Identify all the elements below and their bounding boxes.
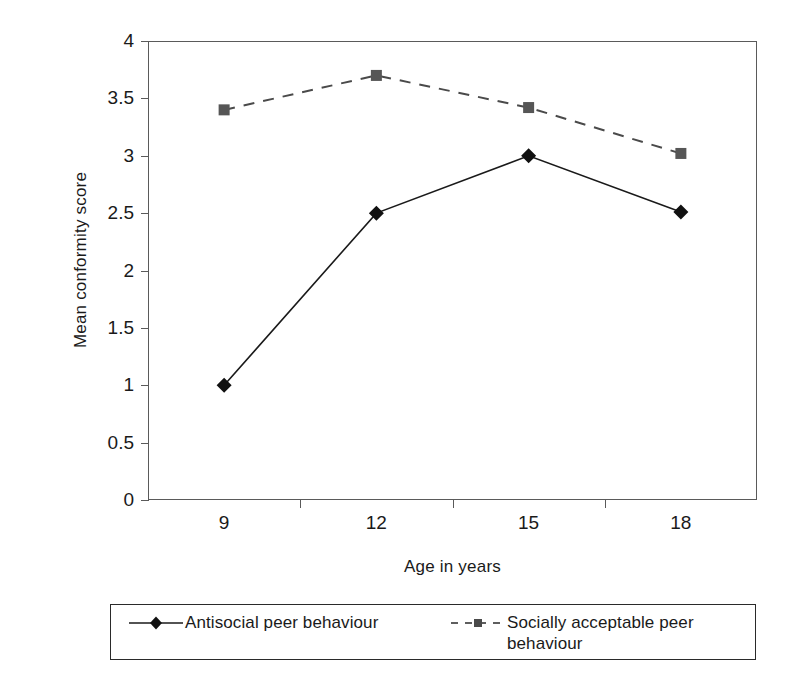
- y-axis-tick-label: 2.5: [74, 203, 134, 222]
- y-axis-tick-mark: [141, 98, 149, 99]
- x-axis-tick-mark: [300, 500, 301, 508]
- y-axis-tick-mark: [141, 385, 149, 386]
- y-axis-tick-label: 0: [74, 490, 134, 509]
- y-axis-tick-mark: [141, 500, 149, 501]
- y-axis-tick-label: 1.5: [74, 318, 134, 337]
- y-axis-tick-labels: 00.511.522.533.54: [70, 0, 134, 680]
- legend-entry-socially-acceptable: Socially acceptable peer behaviour: [449, 612, 739, 654]
- x-axis-tick-mark: [605, 500, 606, 508]
- y-axis-tick-label: 1: [74, 375, 134, 394]
- legend-marker-square-icon: [449, 613, 507, 633]
- y-axis-tick-label: 4: [74, 31, 134, 50]
- x-axis-tick-mark: [453, 500, 454, 508]
- y-axis-tick-label: 3.5: [74, 88, 134, 107]
- line-chart: Mean conformity score 00.511.522.533.54 …: [0, 0, 792, 680]
- y-axis-tick-mark: [141, 271, 149, 272]
- legend-label-socially-acceptable: Socially acceptable peer behaviour: [507, 612, 739, 654]
- legend-marker-diamond-icon: [127, 613, 185, 633]
- plot-area: [148, 41, 757, 500]
- chart-legend: Antisocial peer behaviour Socially accep…: [110, 604, 756, 660]
- x-axis-tick-label: 15: [484, 512, 574, 534]
- y-axis-tick-label: 3: [74, 146, 134, 165]
- legend-entry-antisocial: Antisocial peer behaviour: [127, 612, 378, 633]
- y-axis-tick-mark: [141, 443, 149, 444]
- x-axis-tick-label: 12: [331, 512, 421, 534]
- x-axis-title: Age in years: [148, 557, 757, 577]
- y-axis-tick-mark: [141, 41, 149, 42]
- x-axis-tick-label: 9: [179, 512, 269, 534]
- y-axis-tick-label: 0.5: [74, 433, 134, 452]
- y-axis-tick-mark: [141, 213, 149, 214]
- y-axis-tick-mark: [141, 328, 149, 329]
- x-axis-tick-label: 18: [636, 512, 726, 534]
- y-axis-tick-mark: [141, 156, 149, 157]
- legend-label-antisocial: Antisocial peer behaviour: [185, 612, 378, 633]
- y-axis-tick-label: 2: [74, 261, 134, 280]
